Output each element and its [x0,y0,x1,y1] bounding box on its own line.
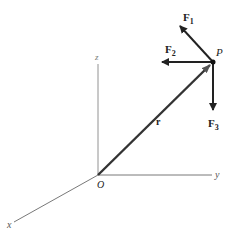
f1-label: F1 [183,12,194,26]
position-vector-r [98,65,210,175]
f2-sub: 2 [172,49,176,58]
f3-label: F3 [208,118,219,132]
x-axis [14,175,98,222]
point-p-dot [211,60,216,65]
f3-sub: 3 [215,123,219,132]
y-axis-label: y [215,170,219,180]
x-axis-label: x [7,220,11,230]
force-f1 [180,26,213,62]
f2-name: F [165,43,172,55]
f2-label: F2 [165,44,176,58]
point-p-label: P [216,47,223,58]
f1-sub: 1 [190,17,194,26]
f1-name: F [183,11,190,23]
origin-label: O [97,180,104,190]
z-axis-label: z [95,53,99,62]
r-label: r [156,117,160,127]
diagram-canvas [0,0,238,230]
f3-name: F [208,117,215,129]
